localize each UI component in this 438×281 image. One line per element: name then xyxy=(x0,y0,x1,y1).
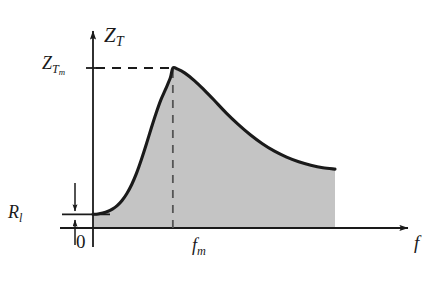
y-peak-label-subsubscript: m xyxy=(59,67,65,77)
y-peak-value-label: ZTm xyxy=(42,54,65,72)
baseline-label-subscript: l xyxy=(19,211,22,225)
y-peak-label-subscript: Tm xyxy=(52,62,65,76)
baseline-label-base: R xyxy=(8,202,19,222)
figure-canvas: ZT ZTm Rl 0 fm f xyxy=(0,0,438,281)
y-peak-label-base: Z xyxy=(42,53,52,73)
origin-label: 0 xyxy=(76,232,86,251)
x-peak-label: fm xyxy=(192,236,206,254)
shaded-area xyxy=(93,67,335,228)
impedance-curve-figure xyxy=(0,0,438,281)
x-axis-label: f xyxy=(414,233,419,252)
y-axis-label: ZT xyxy=(104,25,124,46)
y-axis-label-subscript: T xyxy=(116,33,124,49)
baseline-resistance-label: Rl xyxy=(8,203,22,221)
x-peak-label-subscript: m xyxy=(197,244,206,258)
y-axis-label-base: Z xyxy=(104,23,116,47)
